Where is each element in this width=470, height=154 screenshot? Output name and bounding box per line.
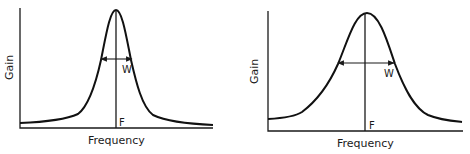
right-center-label: F — [369, 120, 375, 131]
narrow-peak-diagram: W F Frequency Gain — [3, 8, 213, 147]
wide-peak-diagram: W F Frequency Gain — [248, 11, 463, 150]
resonance-diagrams: W F Frequency Gain W F Frequency Gain — [0, 0, 470, 154]
right-y-axis-label: Gain — [248, 59, 261, 84]
right-x-axis-label: Frequency — [337, 137, 394, 150]
left-width-label: W — [122, 64, 132, 75]
left-x-axis-label: Frequency — [88, 134, 145, 147]
left-y-axis-label: Gain — [3, 55, 16, 80]
left-center-label: F — [119, 117, 125, 128]
right-width-label: W — [384, 68, 394, 79]
